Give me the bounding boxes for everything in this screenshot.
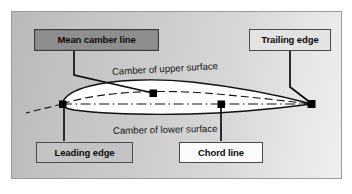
caption-lower-surface: Camber of lower surface — [113, 123, 218, 136]
marker-leading-edge — [59, 101, 67, 109]
label-leading-edge[interactable]: Leading edge — [36, 142, 133, 163]
leader-trailing-edge — [290, 51, 311, 103]
marker-trailing-edge — [308, 100, 316, 108]
diagram-plate: Camber of upper surface Camber of lower … — [11, 11, 342, 179]
chord-extension-dashed — [26, 104, 62, 113]
figure-root: Camber of upper surface Camber of lower … — [0, 0, 352, 194]
marker-chord-point — [218, 101, 226, 109]
label-trailing-edge[interactable]: Trailing edge — [249, 29, 331, 51]
label-chord-line[interactable]: Chord line — [179, 142, 263, 163]
label-mean-camber-line[interactable]: Mean camber line — [34, 29, 159, 51]
airfoil-shape — [62, 80, 312, 114]
marker-mean-camber-point — [150, 90, 158, 98]
